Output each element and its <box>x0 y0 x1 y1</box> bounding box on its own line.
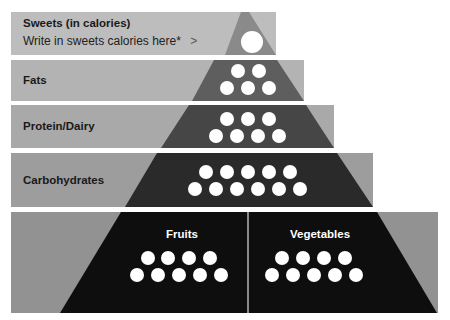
sweets-calories-input[interactable]: Write in sweets calories here* > <box>23 34 197 48</box>
label-carbs: Carbohydrates <box>23 174 104 186</box>
pyramid-graphic <box>0 0 450 320</box>
tier-carbs <box>125 153 373 207</box>
sweets-placeholder: Write in sweets calories here* <box>23 34 181 48</box>
label-fruits: Fruits <box>150 228 214 240</box>
label-sweets: Sweets (in calories) <box>23 17 130 29</box>
tier-protein <box>161 105 334 148</box>
food-pyramid: Sweets (in calories) Write in sweets cal… <box>0 0 450 320</box>
dot <box>241 31 263 53</box>
label-vegetables: Vegetables <box>272 228 368 240</box>
label-fats: Fats <box>23 74 47 86</box>
label-protein: Protein/Dairy <box>23 120 95 132</box>
chevron-right-icon[interactable]: > <box>190 34 197 48</box>
